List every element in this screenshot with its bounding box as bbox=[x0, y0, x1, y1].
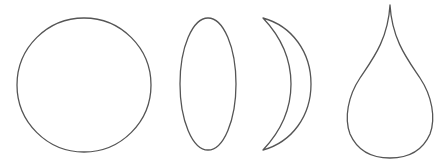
shapes-diagram bbox=[0, 0, 447, 167]
background bbox=[0, 0, 447, 167]
